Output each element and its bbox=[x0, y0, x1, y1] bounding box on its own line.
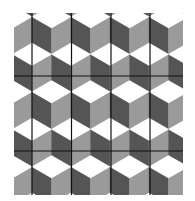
cube-right-face bbox=[0, 129, 13, 167]
cube-left-face bbox=[0, 17, 13, 55]
cube-top-face bbox=[0, 118, 13, 141]
tumbling-blocks-pattern bbox=[0, 0, 195, 201]
cube-left-face bbox=[188, 167, 195, 201]
cube-right-face bbox=[188, 129, 195, 167]
cube-right-face bbox=[188, 54, 195, 92]
cube-tiles bbox=[0, 0, 195, 201]
cube-left-face bbox=[188, 17, 195, 55]
cube-left-face bbox=[188, 92, 195, 130]
cube-left-face bbox=[0, 167, 13, 201]
cube-left-face bbox=[0, 92, 13, 130]
cube-top-face bbox=[0, 43, 13, 66]
cube-top-face bbox=[188, 156, 195, 179]
cube-top-face bbox=[188, 6, 195, 29]
cube-top-face bbox=[0, 193, 13, 201]
cube-right-face bbox=[0, 0, 13, 17]
cube-right-face bbox=[0, 54, 13, 92]
cube-right-face bbox=[188, 0, 195, 17]
cube-top-face bbox=[188, 81, 195, 104]
